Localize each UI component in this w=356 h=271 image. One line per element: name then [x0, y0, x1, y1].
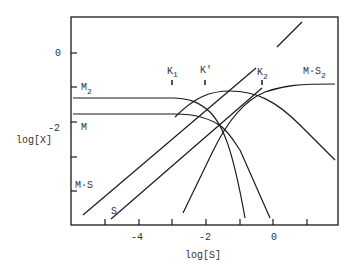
label-k1: K1 [167, 66, 178, 79]
y-axis-ticks [71, 53, 77, 191]
curve-m2 [73, 98, 245, 218]
line-ms [83, 68, 256, 215]
y-tick-0: 0 [55, 48, 61, 59]
x-tick-m2: -2 [199, 232, 211, 243]
x-tick-0: 0 [271, 232, 277, 243]
label-ms2: M·S2 [303, 66, 326, 80]
label-k2: K2 [257, 67, 268, 81]
label-kprime: K' [200, 65, 212, 76]
x-tick-m4: -4 [131, 232, 143, 243]
label-s: S [111, 206, 117, 217]
line-s [111, 88, 262, 219]
y-tick-m2: -2 [48, 123, 60, 134]
chart: 0 -2 log[X] -4 -2 0 log[S] M2 M M·S S M·… [0, 0, 356, 271]
y-axis-title: log[X] [16, 135, 52, 146]
label-m2: M2 [81, 82, 92, 96]
label-m: M [81, 122, 87, 133]
plot-frame [71, 17, 338, 225]
x-axis-ticks [105, 219, 307, 225]
x-axis-title: log[S] [185, 250, 221, 261]
label-ms: M·S [75, 180, 93, 191]
k-markers [172, 80, 262, 85]
line-upper-segment [277, 22, 302, 47]
curve-ms-arch [175, 91, 335, 160]
